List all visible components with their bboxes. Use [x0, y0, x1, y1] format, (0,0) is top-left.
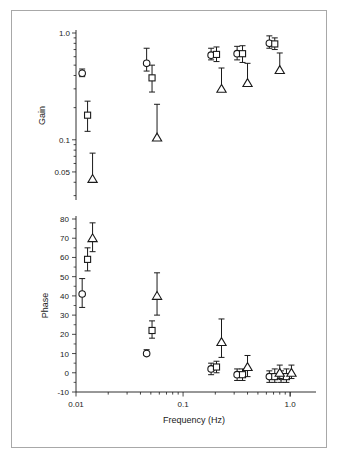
- marker-triangle: [287, 368, 296, 376]
- marker-square: [149, 75, 155, 81]
- marker-triangle: [152, 133, 161, 141]
- marker-triangle: [275, 66, 284, 74]
- gain-axis-label: Gain: [37, 106, 47, 125]
- phase-y-tick-label: 10: [60, 350, 69, 359]
- marker-circle: [143, 60, 150, 67]
- phase-x-tick-label: 0.1: [178, 400, 190, 409]
- phase-y-tick-label: 80: [60, 215, 69, 224]
- marker-triangle: [217, 84, 226, 92]
- marker-square: [85, 112, 91, 118]
- phase-y-tick-label: 30: [60, 311, 69, 320]
- phase-y-tick-label: 50: [60, 273, 69, 282]
- gain-data-group: [79, 36, 284, 182]
- phase-y-tick-label: 60: [60, 253, 69, 262]
- marker-square: [85, 256, 91, 262]
- x-axis-label: Frequency (Hz): [163, 415, 225, 425]
- marker-circle: [143, 350, 150, 357]
- phase-y-tick-label: 70: [60, 234, 69, 243]
- gain-y-tick-label: 0.05: [54, 168, 70, 177]
- gain-y-tick-label: 0.1: [59, 136, 71, 145]
- marker-square: [272, 41, 278, 47]
- marker-triangle: [88, 234, 97, 242]
- phase-y-tick-label: 20: [60, 330, 69, 339]
- gain-axis-group: 1.00.10.05Gain: [37, 29, 76, 200]
- bode-plot-figure: 1.00.10.05Gain-10010203040506070800.010.…: [0, 0, 340, 461]
- phase-y-tick-label: -10: [57, 388, 69, 397]
- phase-x-tick-label: 1.0: [285, 400, 297, 409]
- marker-square: [213, 364, 219, 370]
- marker-circle: [79, 70, 86, 77]
- phase-data-group: [79, 223, 296, 383]
- phase-y-tick-label: 0: [65, 369, 70, 378]
- marker-triangle: [243, 363, 252, 371]
- phase-y-tick-label: 40: [60, 292, 69, 301]
- gain-y-tick-label: 1.0: [59, 29, 71, 38]
- marker-triangle: [275, 368, 284, 376]
- phase-x-tick-label: 0.01: [68, 400, 84, 409]
- marker-triangle: [243, 79, 252, 87]
- phase-axis-label: Phase: [40, 293, 50, 319]
- marker-triangle: [88, 175, 97, 183]
- marker-square: [213, 51, 219, 57]
- marker-square: [149, 327, 155, 333]
- phase-axis-group: -10010203040506070800.010.11.0PhaseFrequ…: [40, 215, 316, 425]
- marker-circle: [79, 291, 86, 298]
- marker-square: [239, 51, 245, 57]
- marker-triangle: [152, 291, 161, 299]
- marker-triangle: [217, 338, 226, 346]
